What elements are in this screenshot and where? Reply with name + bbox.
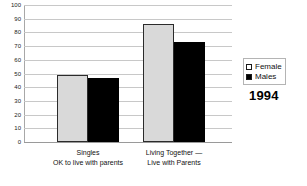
figure-caption — [0, 180, 232, 186]
gridline — [24, 142, 232, 143]
gridline — [24, 19, 232, 20]
legend-item: Female — [246, 62, 282, 71]
light-square-icon — [246, 64, 252, 70]
bar-chart: 0102030405060708090100 SinglesOK to live… — [0, 0, 307, 186]
gridline — [24, 5, 232, 6]
y-axis-tick-label: 0 — [1, 139, 21, 145]
plot-area — [24, 5, 232, 142]
y-axis-tick-labels: 0102030405060708090100 — [0, 0, 21, 147]
x-axis-category-label-line: Live with Parents — [114, 158, 234, 168]
y-axis-tick-label: 60 — [1, 57, 21, 63]
y-axis-tick-label: 70 — [1, 43, 21, 49]
x-axis-category-label: Living Together —Live with Parents — [114, 148, 234, 167]
y-axis-tick-label: 50 — [1, 71, 21, 77]
y-axis-tick-label: 10 — [1, 125, 21, 131]
y-axis-tick-label: 80 — [1, 29, 21, 35]
legend-item-label: Males — [255, 72, 276, 81]
x-axis-category-label-line: Living Together — — [114, 148, 234, 158]
bar-males-1 — [174, 42, 205, 142]
bar-males-0 — [88, 78, 119, 142]
legend-item: Males — [246, 72, 282, 81]
gridline — [24, 32, 232, 33]
y-axis-tick-label: 20 — [1, 112, 21, 118]
legend: FemaleMales — [243, 58, 286, 85]
y-axis-tick-label: 100 — [1, 2, 21, 8]
y-axis-tick-label: 40 — [1, 84, 21, 90]
black-square-icon — [246, 74, 252, 80]
legend-item-label: Female — [255, 62, 282, 71]
y-axis-tick-label: 90 — [1, 16, 21, 22]
bar-female-1 — [143, 24, 174, 142]
year-annotation: 1994 — [249, 88, 279, 103]
y-axis-tick-label: 30 — [1, 98, 21, 104]
bar-female-0 — [57, 75, 88, 142]
